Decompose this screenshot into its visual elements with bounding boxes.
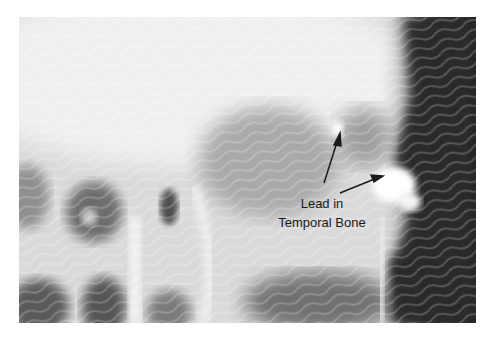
- annotation-caption: Lead in Temporal Bone: [262, 194, 382, 232]
- caption-line-2: Temporal Bone: [262, 213, 382, 232]
- caption-line-1: Lead in: [262, 194, 382, 213]
- xray-rendering: [19, 17, 476, 323]
- xray-image: [19, 17, 476, 323]
